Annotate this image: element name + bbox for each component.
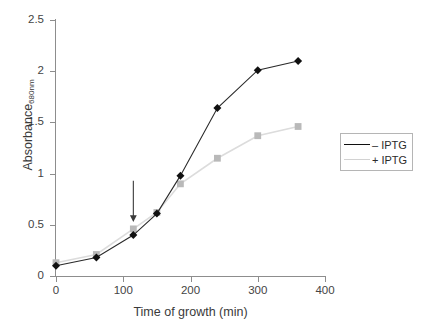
x-tick <box>258 276 259 282</box>
y-tick-label: 2.5 <box>0 14 44 26</box>
x-tick <box>56 276 57 282</box>
data-point-minus-iptg <box>294 57 302 65</box>
data-point-plus-iptg <box>214 155 221 162</box>
y-tick-label: 0.5 <box>0 219 44 231</box>
legend-swatch-minus-iptg <box>344 139 370 151</box>
data-point-plus-iptg <box>177 180 184 187</box>
x-tick-label: 0 <box>36 285 76 297</box>
x-tick-label: 200 <box>171 285 211 297</box>
x-axis-label: Time of growth (min) <box>56 305 325 319</box>
y-tick-label: 0 <box>0 270 44 282</box>
x-tick-label: 300 <box>238 285 278 297</box>
y-axis-label: Absorbance680nm <box>21 45 35 205</box>
x-tick <box>325 276 326 282</box>
data-point-plus-iptg <box>295 123 302 130</box>
legend-label-minus-iptg: – IPTG <box>372 139 407 151</box>
x-tick <box>123 276 124 282</box>
chart-figure: 00.511.522.5 0100200300400 Absorbance680… <box>0 0 424 330</box>
y-axis-label-text: Absorbance <box>21 104 35 171</box>
series-line-minus-iptg <box>56 61 298 266</box>
series-canvas <box>56 20 325 276</box>
plot-area <box>56 20 325 276</box>
legend-item-plus-iptg[interactable]: + IPTG <box>344 152 407 167</box>
annotation-arrow-head-icon <box>130 215 137 222</box>
series-line-plus-iptg <box>56 127 298 263</box>
legend-item-minus-iptg[interactable]: – IPTG <box>344 137 407 152</box>
legend-label-plus-iptg: + IPTG <box>372 154 407 166</box>
x-tick-label: 400 <box>305 285 345 297</box>
data-point-minus-iptg <box>176 172 184 180</box>
y-axis-label-subscript: 680nm <box>27 79 36 103</box>
legend: – IPTG + IPTG <box>340 133 413 171</box>
data-point-plus-iptg <box>254 132 261 139</box>
x-tick-label: 100 <box>103 285 143 297</box>
legend-swatch-plus-iptg <box>344 154 370 166</box>
x-tick <box>191 276 192 282</box>
